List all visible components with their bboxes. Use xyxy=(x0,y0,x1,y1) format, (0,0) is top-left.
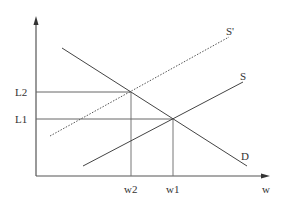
supply-demand-diagram: L2 L1 w2 w1 w D S S' xyxy=(0,0,283,204)
l2-label: L2 xyxy=(15,86,27,98)
supply-shifted-curve xyxy=(50,37,229,136)
supply-label: S xyxy=(240,70,246,82)
y-axis-arrow-icon xyxy=(34,16,39,25)
x-axis-label: w xyxy=(262,183,270,195)
l1-label: L1 xyxy=(15,113,27,125)
w2-label: w2 xyxy=(124,183,137,195)
w1-label: w1 xyxy=(166,183,179,195)
supply-shifted-label: S' xyxy=(226,25,234,37)
supply-curve xyxy=(83,82,243,166)
x-axis-arrow-icon xyxy=(261,174,270,179)
demand-curve xyxy=(62,48,247,166)
demand-label: D xyxy=(241,150,249,162)
